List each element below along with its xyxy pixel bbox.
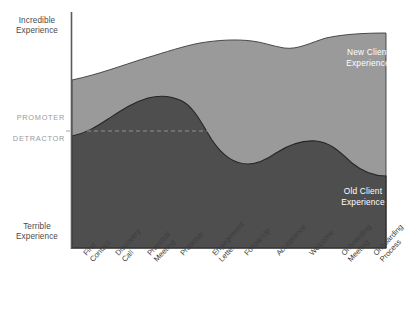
y-axis-bottom-label-line1: Terrible — [8, 222, 66, 232]
y-axis-bottom-label: Terrible Experience — [8, 222, 66, 242]
new-client-experience-label-line1: New Client — [332, 47, 404, 58]
y-axis-bottom-label-line2: Experience — [8, 232, 66, 242]
promoter-threshold-label: PROMOTER — [7, 113, 65, 122]
old-client-experience-label-line1: Old Client — [327, 186, 399, 197]
client-experience-area-chart: Incredible Experience Terrible Experienc… — [0, 0, 414, 318]
detractor-threshold-label: DETRACTOR — [7, 134, 65, 143]
old-client-experience-label-line2: Experience — [327, 197, 399, 208]
old-client-experience-label: Old Client Experience — [327, 186, 399, 207]
y-axis-top-label-line1: Incredible — [8, 16, 66, 26]
new-client-experience-label-line2: Experience — [332, 58, 404, 69]
new-client-experience-label: New Client Experience — [332, 47, 404, 68]
y-axis-top-label: Incredible Experience — [8, 16, 66, 36]
y-axis-top-label-line2: Experience — [8, 26, 66, 36]
